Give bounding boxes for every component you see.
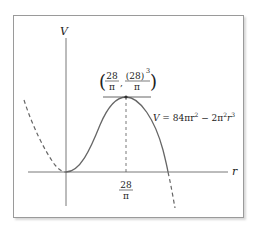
peak-x-num: 28 [106, 71, 118, 81]
x-tick-den: π [123, 191, 129, 201]
peak-y-num: (28) [126, 71, 144, 81]
r-axis-label: r [232, 165, 238, 178]
peak-x-den: π [109, 82, 115, 92]
curve-solid [66, 97, 168, 172]
x-tick-num: 28 [120, 180, 132, 190]
curve-dashed-right [168, 172, 175, 208]
peak-paren-right: ) [150, 71, 157, 92]
equation-label: V = 84πr2 − 2π2r3 [153, 111, 235, 123]
peak-point [124, 95, 127, 98]
peak-comma: , [120, 78, 123, 88]
graph: V r 28 π ( 28 π , (28) 3 π ) V = 84πr2 −… [0, 0, 258, 232]
peak-paren-left: ( [99, 71, 106, 92]
peak-y-den: π [134, 82, 140, 92]
curve-dashed-left [24, 100, 66, 172]
v-axis-label: V [60, 25, 69, 38]
